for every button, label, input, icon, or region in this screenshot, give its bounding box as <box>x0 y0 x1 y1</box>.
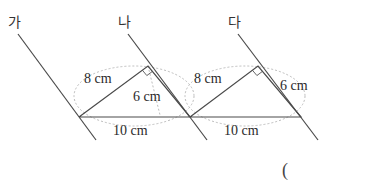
side-ac-label: 10 cm <box>113 123 148 138</box>
right-angle-mark-icon <box>252 70 262 75</box>
side-ab-label: 8 cm <box>194 71 222 86</box>
line-label-da: 다 <box>228 14 241 30</box>
side-ab-label: 8 cm <box>84 71 112 86</box>
triangle-1: 8 cm 6 cm 10 cm <box>79 66 190 138</box>
side-bc-label: 6 cm <box>133 89 161 104</box>
line-label-na: 나 <box>118 14 131 30</box>
parallel-lines-triangle-diagram: 가 나 다 8 cm 6 cm 10 cm 8 cm 6 cm 10 cm ( <box>0 0 382 188</box>
side-bc-label: 6 cm <box>280 78 308 93</box>
side-ac-label: 10 cm <box>224 123 259 138</box>
line-ga <box>18 34 96 140</box>
right-angle-mark-icon <box>142 70 152 75</box>
answer-parenthesis: ( <box>282 160 288 181</box>
parallel-lines: 가 나 다 <box>8 14 318 140</box>
line-label-ga: 가 <box>8 14 21 30</box>
